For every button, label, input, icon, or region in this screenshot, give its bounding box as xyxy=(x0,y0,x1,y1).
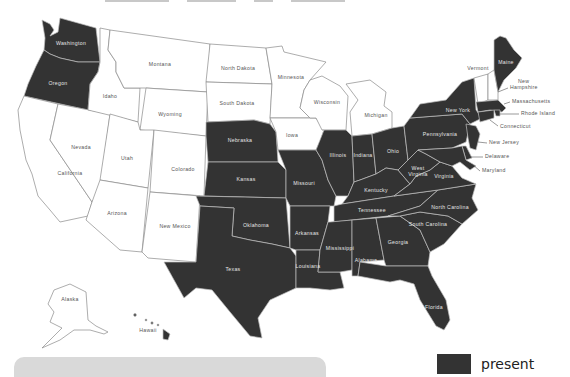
state-florida[interactable] xyxy=(358,262,450,330)
label-connecticut: Connecticut xyxy=(500,123,531,129)
label-california: California xyxy=(58,170,83,176)
label-alabama: Alabama xyxy=(355,257,378,263)
label-south-carolina: South Carolina xyxy=(409,221,448,227)
label-rhode-island: Rhode Island xyxy=(521,110,555,116)
label-colorado: Colorado xyxy=(171,166,194,172)
label-mississippi: Mississippi xyxy=(326,245,354,251)
label-tennessee: Tennessee xyxy=(358,207,386,213)
state-connecticut[interactable] xyxy=(478,110,494,122)
label-louisiana: Louisiana xyxy=(296,263,321,269)
label-washington: Washington xyxy=(56,40,86,46)
label-kansas: Kansas xyxy=(236,176,255,182)
legend: present xyxy=(437,354,534,374)
leader-massachusetts xyxy=(504,102,510,104)
label-vermont: Vermont xyxy=(467,65,489,71)
label-minnesota: Minnesota xyxy=(278,74,305,80)
legend-label-present: present xyxy=(481,356,534,372)
state-michigan[interactable] xyxy=(346,80,392,136)
label-north-dakota: North Dakota xyxy=(221,65,255,71)
label-florida: Florida xyxy=(425,304,443,310)
leader-new-jersey xyxy=(478,142,487,143)
label-new-jersey: New Jersey xyxy=(489,139,519,145)
label-utah: Utah xyxy=(121,155,133,161)
label-texas: Texas xyxy=(225,266,240,272)
bottom-panel xyxy=(14,357,326,377)
label-maryland: Maryland xyxy=(482,167,506,173)
label-south-dakota: South Dakota xyxy=(219,100,254,106)
label-new-hampshire-line2: Hampshire xyxy=(510,84,538,90)
label-arkansas: Arkansas xyxy=(295,230,319,236)
label-iowa: Iowa xyxy=(286,132,298,138)
state-rhode-island[interactable] xyxy=(494,110,500,116)
label-new-mexico: New Mexico xyxy=(159,223,190,229)
label-hawaii: Hawaii xyxy=(139,327,156,333)
state-new-jersey[interactable] xyxy=(466,124,480,150)
state-alaska[interactable] xyxy=(42,284,108,348)
label-indiana: Indiana xyxy=(353,152,372,158)
label-oklahoma: Oklahoma xyxy=(243,222,269,228)
label-missouri: Missouri xyxy=(293,180,315,186)
state-colorado[interactable] xyxy=(150,130,206,196)
label-illinois: Illinois xyxy=(330,152,347,158)
label-maine: Maine xyxy=(498,59,514,65)
leader-connecticut xyxy=(490,120,498,126)
label-nevada: Nevada xyxy=(71,144,91,150)
label-arizona: Arizona xyxy=(107,210,127,216)
label-massachusetts: Massachusetts xyxy=(512,98,551,104)
label-idaho: Idaho xyxy=(103,93,117,99)
state-north-dakota[interactable] xyxy=(206,44,272,84)
label-michigan: Michigan xyxy=(364,112,387,118)
label-wisconsin: Wisconsin xyxy=(314,99,340,105)
state-vermont[interactable] xyxy=(474,74,488,104)
label-new-york: New York xyxy=(446,107,470,113)
label-virginia: Virginia xyxy=(434,173,454,179)
label-pennsylvania: Pennsylvania xyxy=(423,131,457,137)
label-nebraska: Nebraska xyxy=(228,137,253,143)
label-kentucky: Kentucky xyxy=(364,187,388,193)
label-alaska: Alaska xyxy=(61,296,78,302)
label-wyoming: Wyoming xyxy=(158,111,182,117)
label-west-virginia-line2: Virginia xyxy=(408,171,428,177)
label-north-carolina: North Carolina xyxy=(431,204,469,210)
label-delaware: Delaware xyxy=(485,153,509,159)
label-montana: Montana xyxy=(149,61,171,67)
legend-swatch-present xyxy=(437,354,471,374)
label-oregon: Oregon xyxy=(48,80,67,86)
label-georgia: Georgia xyxy=(388,239,409,245)
label-ohio: Ohio xyxy=(387,148,399,154)
